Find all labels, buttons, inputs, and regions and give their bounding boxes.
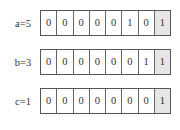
- bit-cell: 0: [90, 50, 106, 74]
- register-label: b=3: [8, 49, 38, 76]
- register-label: c=1: [8, 88, 38, 115]
- bit-cell: 0: [106, 11, 122, 35]
- bit-register: 0 0 0 0 0 1 0 1: [40, 10, 171, 36]
- bit-register: 0 0 0 0 0 0 1 1: [40, 49, 171, 75]
- bit-cell: 0: [41, 50, 57, 74]
- bit-cell: 0: [90, 89, 106, 113]
- bit-cell: 0: [74, 89, 90, 113]
- bit-cell: 0: [74, 50, 90, 74]
- bit-cell: 0: [139, 11, 155, 35]
- bit-cell: 0: [106, 89, 122, 113]
- bit-cell: 0: [122, 50, 138, 74]
- bit-cell-lsb-highlighted: 1: [155, 89, 170, 113]
- bit-register: 0 0 0 0 0 0 0 1: [40, 88, 171, 114]
- bit-cell: 0: [106, 50, 122, 74]
- register-row-b: b=3 0 0 0 0 0 0 1 1: [0, 49, 180, 76]
- bit-cell: 0: [122, 89, 138, 113]
- register-row-c: c=1 0 0 0 0 0 0 0 1: [0, 88, 180, 115]
- bit-cell: 0: [74, 11, 90, 35]
- bit-cell-lsb-highlighted: 1: [155, 50, 170, 74]
- bit-cell: 0: [57, 89, 73, 113]
- register-row-a: a=5 0 0 0 0 0 1 0 1: [0, 10, 180, 37]
- bit-cell: 0: [90, 11, 106, 35]
- bit-cell: 0: [57, 50, 73, 74]
- bit-cell: 0: [57, 11, 73, 35]
- bit-cell: 0: [139, 89, 155, 113]
- bit-cell: 0: [41, 89, 57, 113]
- bit-cell: 0: [41, 11, 57, 35]
- bit-cell: 1: [122, 11, 138, 35]
- register-label: a=5: [8, 10, 38, 37]
- bit-cell: 1: [139, 50, 155, 74]
- bit-cell-lsb-highlighted: 1: [155, 11, 170, 35]
